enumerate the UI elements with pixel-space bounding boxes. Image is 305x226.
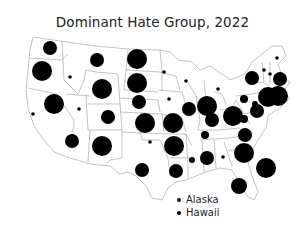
marker-or <box>32 61 52 81</box>
marker-mn <box>162 70 166 74</box>
legend: Alaska Hawaii <box>177 193 220 219</box>
legend-label: Hawaii <box>186 206 220 219</box>
marker-ma <box>273 72 287 86</box>
dot-icon <box>177 198 181 202</box>
marker-az <box>65 134 79 148</box>
marker-tn <box>201 131 209 139</box>
marker-ok <box>148 140 152 144</box>
us-state-map <box>0 0 305 226</box>
marker-pa <box>240 95 248 103</box>
marker-tx <box>135 163 149 177</box>
marker-nd <box>127 49 147 69</box>
marker-ks <box>163 113 183 133</box>
marker-sc <box>234 143 254 163</box>
marker-ne <box>132 95 146 109</box>
marker-wy <box>92 79 112 99</box>
marker-atl <box>256 158 276 178</box>
marker-ca <box>31 112 35 116</box>
marker-ky <box>205 113 219 127</box>
marker-wi <box>184 79 188 83</box>
marker-la <box>169 164 183 178</box>
marker-ny <box>245 71 259 85</box>
marker-mt <box>90 53 104 67</box>
dot-icon <box>177 211 181 215</box>
marker-ct <box>268 86 288 106</box>
marker-ri <box>266 87 270 91</box>
marker-me <box>275 56 279 60</box>
marker-nv <box>77 107 81 111</box>
marker-fl <box>231 178 247 194</box>
marker-in <box>197 96 217 116</box>
marker-al <box>200 151 214 165</box>
marker-id <box>68 75 72 79</box>
marker-ia <box>167 97 171 101</box>
marker-mi <box>216 87 220 91</box>
marker-ga <box>221 155 225 159</box>
marker-sd <box>127 73 147 93</box>
marker-wv <box>240 115 248 123</box>
marker-nm <box>92 136 112 156</box>
marker-ms <box>189 157 195 163</box>
marker-mo <box>164 136 184 156</box>
state-borders <box>26 37 290 200</box>
marker-layer <box>31 41 288 194</box>
marker-oh <box>223 106 243 126</box>
legend-item-hawaii: Hawaii <box>177 206 220 219</box>
marker-ut <box>101 110 115 124</box>
marker-vt <box>262 68 266 72</box>
marker-wa <box>43 41 57 55</box>
marker-nc <box>238 128 252 142</box>
marker-il <box>182 102 196 116</box>
marker-nh <box>268 72 272 76</box>
marker-co <box>135 113 155 133</box>
legend-item-alaska: Alaska <box>177 193 220 206</box>
marker-nj <box>252 101 258 107</box>
marker-ca2 <box>44 94 64 114</box>
legend-label: Alaska <box>186 193 219 206</box>
